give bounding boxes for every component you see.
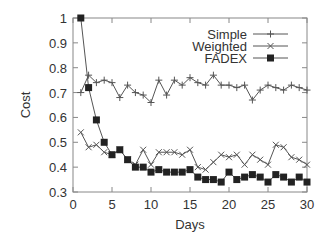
- y-tick-label: 0.3: [49, 185, 67, 200]
- x-tick-label: 15: [183, 197, 197, 212]
- y-tick-label: 0.6: [49, 110, 67, 125]
- x-tick-label: 5: [108, 197, 115, 212]
- x-tick-label: 0: [69, 197, 76, 212]
- y-axis-label: Cost: [18, 91, 33, 118]
- y-tick-label: 1: [60, 11, 67, 26]
- x-tick-label: 30: [300, 197, 314, 212]
- y-tick-label: 0.7: [49, 86, 67, 101]
- legend: SimpleWeightedFADEX: [192, 27, 288, 66]
- legend-label: FADEX: [204, 51, 247, 66]
- y-tick-label: 0.5: [49, 135, 67, 150]
- x-tick-label: 25: [261, 197, 275, 212]
- series-simple: [77, 72, 310, 106]
- y-tick-label: 0.9: [49, 36, 67, 51]
- y-tick-label: 0.8: [49, 61, 67, 76]
- series-weighted: [78, 129, 310, 172]
- axis-tick-labels: 0510152025300.30.40.50.60.70.80.91: [49, 11, 314, 212]
- cost-vs-days-chart: 0510152025300.30.40.50.60.70.80.91 Cost …: [0, 0, 332, 242]
- x-tick-label: 10: [144, 197, 158, 212]
- x-axis-label: Days: [175, 217, 205, 232]
- x-tick-label: 20: [222, 197, 236, 212]
- y-tick-label: 0.4: [49, 160, 67, 175]
- legend-item-fadex: FADEX: [204, 51, 288, 66]
